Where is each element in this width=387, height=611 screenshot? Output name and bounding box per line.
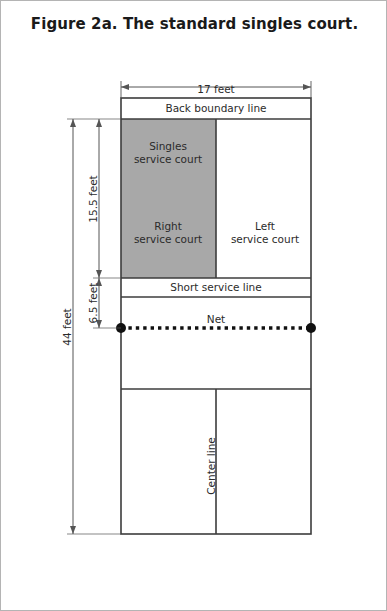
label-left-service-court-line2: service court: [231, 233, 299, 246]
dimension-label-front-service: 6.5 feet: [87, 283, 100, 324]
dim-44-arrow-top-icon: [70, 119, 76, 127]
dim-155-arrow-top-icon: [96, 119, 102, 127]
dim-17-arrow-right-icon: [303, 84, 311, 90]
label-singles-service-court: Singles service court: [134, 140, 202, 165]
dim-44-arrow-bottom-icon: [70, 526, 76, 534]
label-singles-service-court-line2: service court: [134, 153, 202, 166]
net-post-right-icon: [306, 323, 316, 333]
label-left-service-court-line1: Left: [231, 220, 299, 233]
dimension-label-width: 17 feet: [197, 83, 234, 96]
label-back-boundary-line: Back boundary line: [165, 102, 266, 115]
label-singles-service-court-line1: Singles: [134, 140, 202, 153]
label-center-line: Center line: [205, 437, 218, 495]
label-short-service-line: Short service line: [170, 281, 261, 294]
label-left-service-court: Left service court: [231, 220, 299, 245]
label-right-service-court-line2: service court: [134, 233, 202, 246]
label-right-service-court-line1: Right: [134, 220, 202, 233]
dimension-label-total-length: 44 feet: [61, 308, 74, 345]
badminton-court-diagram: [1, 1, 387, 611]
figure-page: Figure 2a. The standard singles court.: [0, 0, 387, 611]
label-right-service-court: Right service court: [134, 220, 202, 245]
dim-155-arrow-bottom-icon: [96, 270, 102, 278]
dim-17-arrow-left-icon: [121, 84, 129, 90]
label-net: Net: [207, 313, 225, 326]
dimension-label-rear-service: 15.5 feet: [87, 175, 100, 222]
